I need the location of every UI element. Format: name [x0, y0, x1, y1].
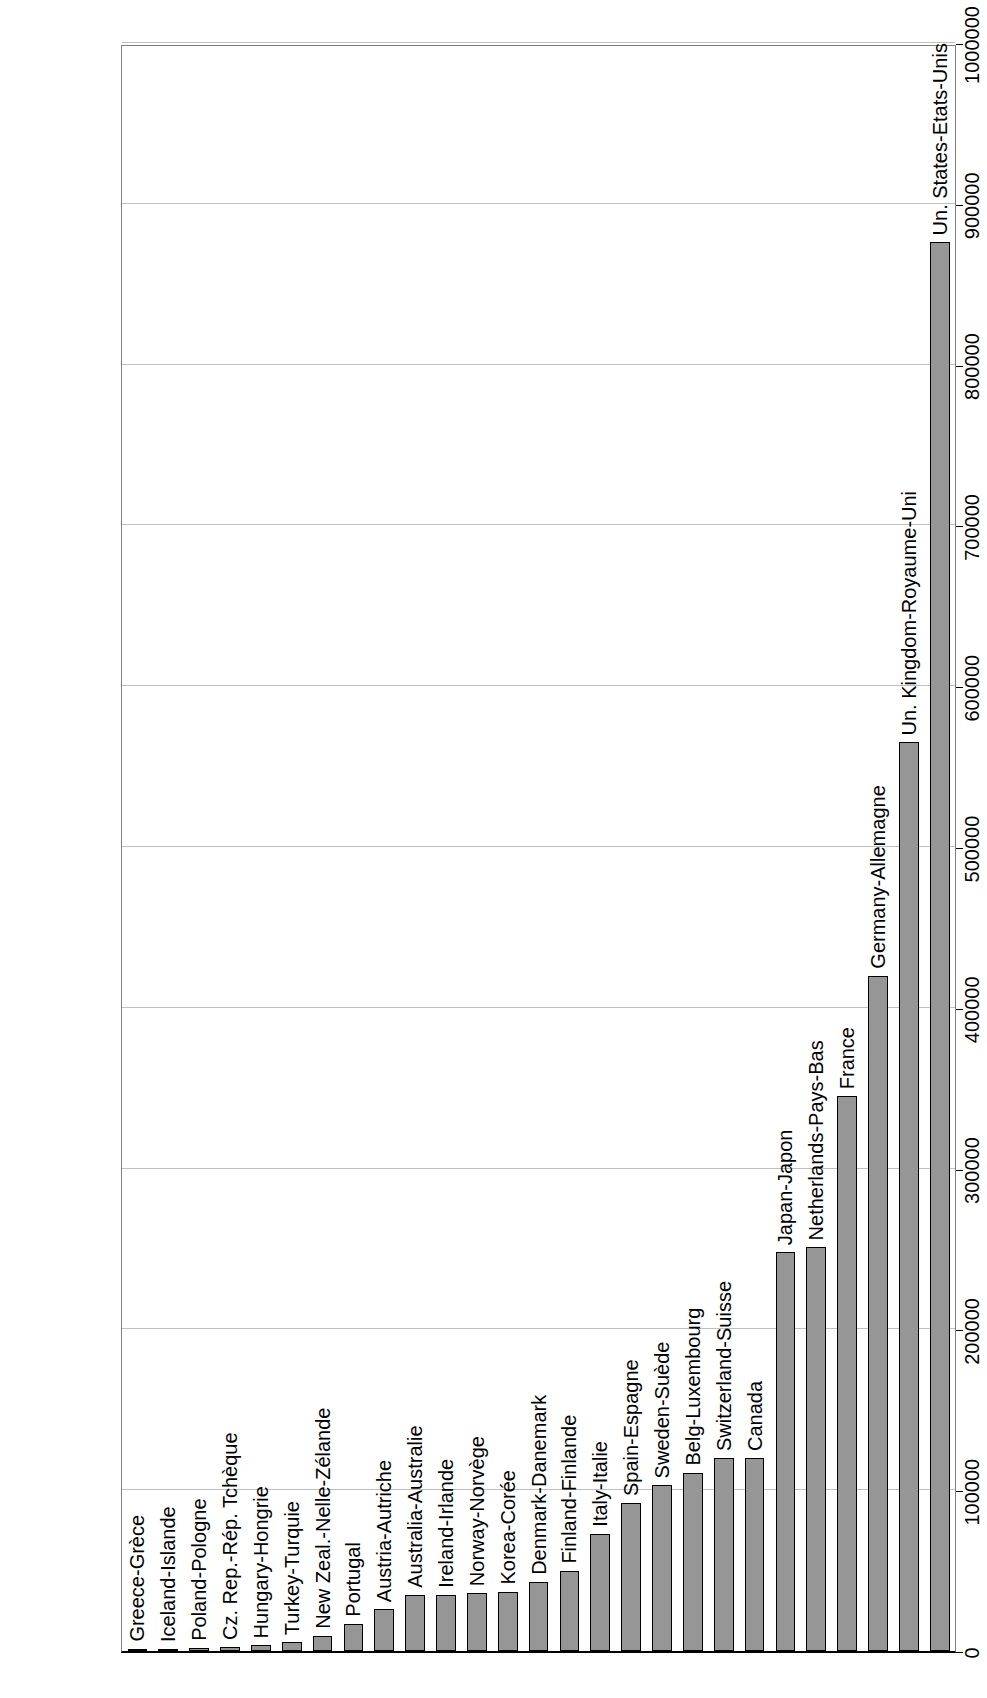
bar-category-label: Greece-Grèce — [127, 1515, 147, 1649]
bar[interactable] — [930, 242, 950, 1651]
bar-category-label: Sweden-Suède — [652, 1342, 672, 1486]
axis-tick-label: 500000 — [961, 816, 984, 883]
bar-category-label: Spain-Espagne — [621, 1359, 641, 1503]
axis-tick-label: 600000 — [961, 655, 984, 722]
bar-row: Un. States-Etats-Unis — [924, 46, 955, 1651]
bar-category-label: New Zeal.-Nelle-Zélande — [313, 1408, 333, 1636]
bar[interactable] — [251, 1645, 271, 1651]
bar[interactable] — [313, 1636, 333, 1651]
bar-row: Finland-Finlande — [554, 46, 585, 1651]
bar-series: Greece-GrèceIceland-IslandePoland-Pologn… — [122, 46, 955, 1651]
bar-category-label: Un. Kingdom-Royaume-Uni — [899, 491, 919, 743]
axis-tick-label: 400000 — [961, 976, 984, 1043]
bar[interactable] — [868, 976, 888, 1651]
bar-category-label: Poland-Pologne — [189, 1498, 209, 1647]
bar-row: Turkey-Turquie — [276, 46, 307, 1651]
bar[interactable] — [621, 1503, 641, 1651]
bar[interactable] — [652, 1485, 672, 1651]
bar-category-label: Japan-Japon — [775, 1130, 795, 1253]
bar-row: Austria-Autriche — [369, 46, 400, 1651]
bar-row: Switzerland-Suisse — [708, 46, 739, 1651]
bar[interactable] — [374, 1609, 394, 1651]
bar-category-label: France — [837, 1027, 857, 1096]
bar[interactable] — [220, 1647, 240, 1651]
bar[interactable] — [683, 1473, 703, 1651]
bar-row: Sweden-Suède — [647, 46, 678, 1651]
bar[interactable] — [714, 1458, 734, 1651]
bar-category-label: Hungary-Hongrie — [251, 1486, 271, 1645]
gridline — [122, 42, 955, 43]
bar-row: Ireland-Irlande — [431, 46, 462, 1651]
axis-tick-label: 300000 — [961, 1137, 984, 1204]
bar-category-label: Australia-Australie — [405, 1425, 425, 1594]
bar-category-label: Finland-Finlande — [559, 1415, 579, 1571]
bar[interactable] — [405, 1595, 425, 1651]
bar[interactable] — [529, 1582, 549, 1651]
bar-row: Australia-Australie — [400, 46, 431, 1651]
bar[interactable] — [590, 1534, 610, 1651]
bar-category-label: Cz. Rep.-Rép. Tchèque — [220, 1432, 240, 1647]
axis-tick-label: 200000 — [961, 1298, 984, 1365]
bar-category-label: Netherlands-Pays-Bas — [806, 1040, 826, 1247]
bar[interactable] — [745, 1458, 765, 1651]
bar[interactable] — [282, 1642, 302, 1651]
bar-row: Korea-Corée — [492, 46, 523, 1651]
bar-category-label: Denmark-Danemark — [529, 1395, 549, 1582]
bar-row: Germany-Allemagne — [863, 46, 894, 1651]
bar-row: Cz. Rep.-Rép. Tchèque — [215, 46, 246, 1651]
bar-category-label: Turkey-Turquie — [282, 1501, 302, 1642]
bar-row: Norway-Norvège — [461, 46, 492, 1651]
bar-row: Greece-Grèce — [122, 46, 153, 1651]
bar-row: Japan-Japon — [770, 46, 801, 1651]
bar-row: New Zeal.-Nelle-Zélande — [307, 46, 338, 1651]
bar-row: Poland-Pologne — [184, 46, 215, 1651]
bar-category-label: Norway-Norvège — [467, 1436, 487, 1593]
bar-category-label: Belg-Luxembourg — [683, 1308, 703, 1473]
bar-category-label: Portugal — [343, 1542, 363, 1624]
axis-tick-label: 900000 — [961, 172, 984, 239]
bar-row: Italy-Italie — [585, 46, 616, 1651]
bar-row: Spain-Espagne — [616, 46, 647, 1651]
bar-row: Denmark-Danemark — [523, 46, 554, 1651]
bar[interactable] — [158, 1649, 178, 1651]
plot-area: Greece-GrèceIceland-IslandePoland-Pologn… — [121, 45, 956, 1653]
rotated-figure-wrapper: Greece-GrèceIceland-IslandePoland-Pologn… — [0, 0, 987, 1698]
bar[interactable] — [837, 1096, 857, 1651]
bar-category-label: Un. States-Etats-Unis — [930, 43, 950, 242]
bar-row: Iceland-Islande — [153, 46, 184, 1651]
axis-tick-label: 700000 — [961, 494, 984, 561]
bar[interactable] — [806, 1247, 826, 1651]
bar-row: Hungary-Hongrie — [245, 46, 276, 1651]
bar[interactable] — [560, 1571, 580, 1651]
bar-chart-figure: Greece-GrèceIceland-IslandePoland-Pologn… — [0, 0, 987, 1698]
bar-row: Un. Kingdom-Royaume-Uni — [893, 46, 924, 1651]
axis-tick-label: 1000000 — [961, 6, 984, 84]
bar[interactable] — [128, 1649, 148, 1651]
bar-row: France — [832, 46, 863, 1651]
bar[interactable] — [899, 742, 919, 1651]
bar[interactable] — [344, 1624, 364, 1651]
bar-category-label: Ireland-Irlande — [436, 1459, 456, 1595]
axis-tick-label: 800000 — [961, 333, 984, 400]
bar[interactable] — [436, 1595, 456, 1651]
bar[interactable] — [776, 1252, 796, 1651]
bar-category-label: Switzerland-Suisse — [714, 1281, 734, 1458]
bar-row: Portugal — [338, 46, 369, 1651]
axis-tick-label: 100000 — [961, 1459, 984, 1526]
bar-category-label: Italy-Italie — [590, 1441, 610, 1534]
bar-row: Netherlands-Pays-Bas — [801, 46, 832, 1651]
bar-category-label: Austria-Autriche — [374, 1460, 394, 1609]
bar-row: Canada — [739, 46, 770, 1651]
bar[interactable] — [498, 1592, 518, 1651]
bar-category-label: Iceland-Islande — [158, 1506, 178, 1649]
bar-category-label: Germany-Allemagne — [868, 785, 888, 975]
bar-category-label: Canada — [745, 1381, 765, 1458]
bar-category-label: Korea-Corée — [498, 1470, 518, 1592]
bar-row: Belg-Luxembourg — [677, 46, 708, 1651]
bar[interactable] — [467, 1593, 487, 1651]
axis-tick-label: 0 — [961, 1647, 984, 1658]
bar[interactable] — [189, 1648, 209, 1651]
